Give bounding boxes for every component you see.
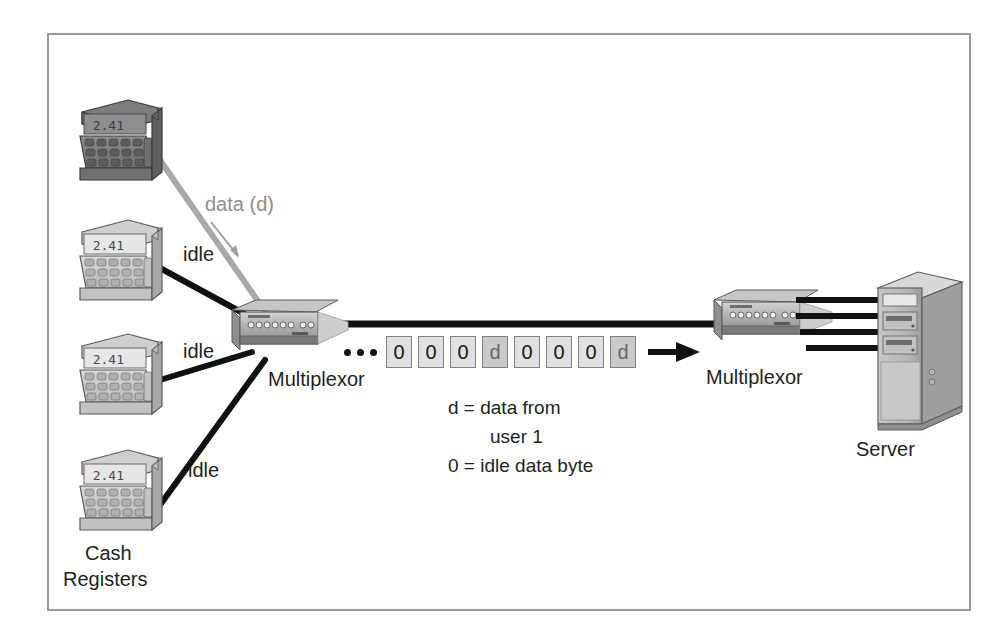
label-idle-register-4: idle (188, 459, 219, 482)
label-idle-register-3: idle (183, 340, 214, 363)
label-data-link: data (d) (205, 193, 274, 216)
ellipsis-dot (357, 349, 364, 356)
legend-line-1: d = data from (448, 397, 560, 419)
byte-cell-data: d (482, 336, 508, 368)
label-cash-registers-line1: Cash (85, 540, 132, 566)
byte-cell-idle: 0 (418, 336, 444, 368)
legend-line-3: 0 = idle data byte (448, 455, 593, 477)
label-multiplexor-left: Multiplexor (268, 368, 365, 391)
label-idle-register-2: idle (183, 243, 214, 266)
label-multiplexor-right: Multiplexor (706, 366, 803, 389)
label-server: Server (856, 438, 915, 461)
byte-cell-idle: 0 (450, 336, 476, 368)
label-cash-registers-line2: Registers (63, 566, 147, 592)
diagram-canvas: 2.41 2.41 (0, 0, 1008, 640)
ellipsis-dot (344, 349, 351, 356)
byte-cell-idle: 0 (386, 336, 412, 368)
byte-cell-idle: 0 (514, 336, 540, 368)
figure-border (47, 33, 971, 611)
ellipsis-dot (370, 349, 377, 356)
byte-cell-idle: 0 (578, 336, 604, 368)
byte-cell-idle: 0 (546, 336, 572, 368)
legend-line-2: user 1 (490, 426, 543, 448)
byte-cell-data: d (610, 336, 636, 368)
